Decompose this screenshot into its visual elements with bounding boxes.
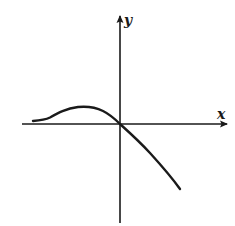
function-graph: x y (0, 0, 235, 226)
x-axis-label: x (216, 106, 226, 122)
function-curve (33, 107, 180, 189)
y-axis-label: y (123, 12, 133, 28)
